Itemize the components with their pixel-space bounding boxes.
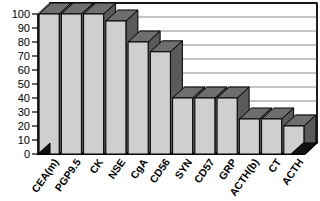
bar-front-face [217,98,237,154]
y-axis-label-50: 50 [18,78,30,90]
bar-front-face [128,42,148,154]
y-axis-label-10: 10 [18,134,30,146]
bar-front-face [39,14,59,154]
y-axis-label-70: 70 [18,50,30,62]
y-axis-label-30: 30 [18,106,30,118]
y-axis-label-60: 60 [18,64,30,76]
y-axis-label-0: 0 [24,148,30,160]
bar-front-face [61,14,81,154]
x-axis-label-CK: CK [87,156,106,176]
y-axis-label-90: 90 [18,22,30,34]
y-axis-label-80: 80 [18,36,30,48]
x-axis-label-ACTH: ACTH [279,156,306,187]
bar-front-face [239,119,259,154]
chart-canvas: 0102030405060708090100CEA(m)PGP9.5CKNSEC… [0,0,320,201]
bar-front-face [262,119,282,154]
bar-chart: 0102030405060708090100CEA(m)PGP9.5CKNSEC… [0,0,320,201]
y-axis-label-40: 40 [18,92,30,104]
bar-front-face [150,52,170,154]
x-axis-label-CT: CT [265,156,283,175]
bar-front-face [84,14,104,154]
x-axis-label-CD56: CD56 [147,156,172,185]
y-axis-label-100: 100 [12,8,30,20]
x-axis-label-CD57: CD57 [191,156,216,185]
bar-front-face [173,98,193,154]
bar-front-face [195,98,215,154]
x-axis-label-NSE: NSE [105,156,127,181]
y-axis-label-20: 20 [18,120,30,132]
bar-front-face [106,21,126,154]
